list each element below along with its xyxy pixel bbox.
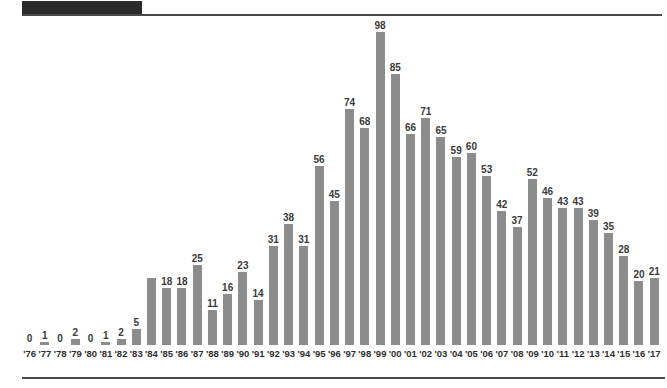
bar-column[interactable]: 2 — [113, 20, 128, 345]
bar-column[interactable]: 46 — [540, 20, 555, 345]
bar-column[interactable]: 18 — [159, 20, 174, 345]
x-axis-tick: '95 — [311, 347, 326, 363]
x-axis-tick: '92 — [266, 347, 281, 363]
bar-column[interactable]: 20 — [631, 20, 646, 345]
bar-column[interactable]: 45 — [327, 20, 342, 345]
bar-rect[interactable] — [193, 265, 202, 345]
bar-column[interactable]: 28 — [616, 20, 631, 345]
bar-column[interactable]: 74 — [342, 20, 357, 345]
bar-rect[interactable] — [452, 157, 461, 345]
bar-rect[interactable] — [360, 128, 369, 345]
bar-rect[interactable] — [589, 220, 598, 345]
bar-rect[interactable] — [391, 74, 400, 346]
bar-column[interactable]: 18 — [174, 20, 189, 345]
bar-column[interactable]: 53 — [479, 20, 494, 345]
bar-column[interactable]: 39 — [586, 20, 601, 345]
bar-value-label: 71 — [420, 106, 431, 117]
bar-rect[interactable] — [634, 281, 643, 345]
bar-rect[interactable] — [284, 224, 293, 345]
bar-rect[interactable] — [467, 153, 476, 345]
bar-rect[interactable] — [345, 109, 354, 345]
bar-column[interactable]: 1 — [98, 20, 113, 345]
bar-rect[interactable] — [269, 246, 278, 345]
bar-column[interactable]: 31 — [266, 20, 281, 345]
bar-rect[interactable] — [132, 329, 141, 345]
x-axis-tick: '82 — [113, 347, 128, 363]
bar-column[interactable]: 37 — [510, 20, 525, 345]
bar-column[interactable]: 71 — [418, 20, 433, 345]
bar-value-label: 52 — [527, 167, 538, 178]
bar-column[interactable]: 35 — [601, 20, 616, 345]
bar-rect[interactable] — [604, 233, 613, 345]
bar-rect[interactable] — [117, 339, 126, 345]
bar-column[interactable]: 16 — [220, 20, 235, 345]
bar-value-label: 18 — [176, 276, 187, 287]
bar-rect[interactable] — [528, 179, 537, 345]
x-axis-tick: '13 — [586, 347, 601, 363]
bar-column[interactable]: 42 — [494, 20, 509, 345]
x-axis-tick: '88 — [205, 347, 220, 363]
bar-rect[interactable] — [482, 176, 491, 345]
bar-rect[interactable] — [101, 342, 110, 345]
bar-rect[interactable] — [513, 227, 522, 345]
bar-rect[interactable] — [299, 246, 308, 345]
bar-column[interactable]: 38 — [281, 20, 296, 345]
bar-column[interactable]: 85 — [388, 20, 403, 345]
bar-column[interactable]: 98 — [372, 20, 387, 345]
bar-rect[interactable] — [497, 211, 506, 345]
bar-rect[interactable] — [376, 32, 385, 345]
bar-rect[interactable] — [421, 118, 430, 345]
bar-rect[interactable] — [543, 198, 552, 345]
bar-rect[interactable] — [436, 137, 445, 345]
bar-rect[interactable] — [315, 166, 324, 345]
bar-rect[interactable] — [574, 208, 583, 345]
bar-value-label: 98 — [374, 20, 385, 31]
x-axis-tick: '05 — [464, 347, 479, 363]
bar-column[interactable]: 52 — [525, 20, 540, 345]
bar-rect[interactable] — [177, 288, 186, 346]
bar-column[interactable]: 5 — [129, 20, 144, 345]
bar-rect[interactable] — [238, 272, 247, 346]
bar-rect[interactable] — [40, 342, 49, 345]
bar-column[interactable]: 65 — [433, 20, 448, 345]
bar-rect[interactable] — [162, 288, 171, 346]
bar-rect[interactable] — [71, 339, 80, 345]
bar-column[interactable]: 23 — [235, 20, 250, 345]
bar-column[interactable]: 68 — [357, 20, 372, 345]
bar-rect[interactable] — [406, 134, 415, 345]
bar-value-label: 18 — [161, 276, 172, 287]
x-axis-tick: '14 — [601, 347, 616, 363]
bar-rect[interactable] — [208, 310, 217, 345]
bar-rect[interactable] — [147, 278, 156, 345]
bar-rect[interactable] — [254, 300, 263, 345]
bar-column[interactable]: 11 — [205, 20, 220, 345]
bar-column[interactable]: 25 — [190, 20, 205, 345]
bar-rect[interactable] — [619, 256, 628, 345]
bar-value-label: 39 — [588, 208, 599, 219]
bar-rect[interactable] — [650, 278, 659, 345]
bar-column[interactable]: 0 — [83, 20, 98, 345]
bar-column[interactable] — [144, 20, 159, 345]
bar-rect[interactable] — [330, 201, 339, 345]
x-axis-tick: '16 — [631, 347, 646, 363]
bar-column[interactable]: 56 — [311, 20, 326, 345]
bar-column[interactable]: 14 — [251, 20, 266, 345]
bar-column[interactable]: 43 — [555, 20, 570, 345]
x-axis-tick: '90 — [235, 347, 250, 363]
bar-column[interactable]: 21 — [647, 20, 662, 345]
bar-rect[interactable] — [223, 294, 232, 345]
bar-value-label: 31 — [268, 234, 279, 245]
bar-column[interactable]: 43 — [570, 20, 585, 345]
bar-column[interactable]: 31 — [296, 20, 311, 345]
bar-column[interactable]: 60 — [464, 20, 479, 345]
bar-column[interactable]: 1 — [37, 20, 52, 345]
bar-column[interactable]: 0 — [22, 20, 37, 345]
x-axis-tick: '85 — [159, 347, 174, 363]
bar-value-label: 38 — [283, 212, 294, 223]
bar-column[interactable]: 66 — [403, 20, 418, 345]
bar-column[interactable]: 0 — [52, 20, 67, 345]
bar-rect[interactable] — [558, 208, 567, 345]
bar-column[interactable]: 2 — [68, 20, 83, 345]
bar-column[interactable]: 59 — [449, 20, 464, 345]
bar-value-label: 21 — [649, 266, 660, 277]
